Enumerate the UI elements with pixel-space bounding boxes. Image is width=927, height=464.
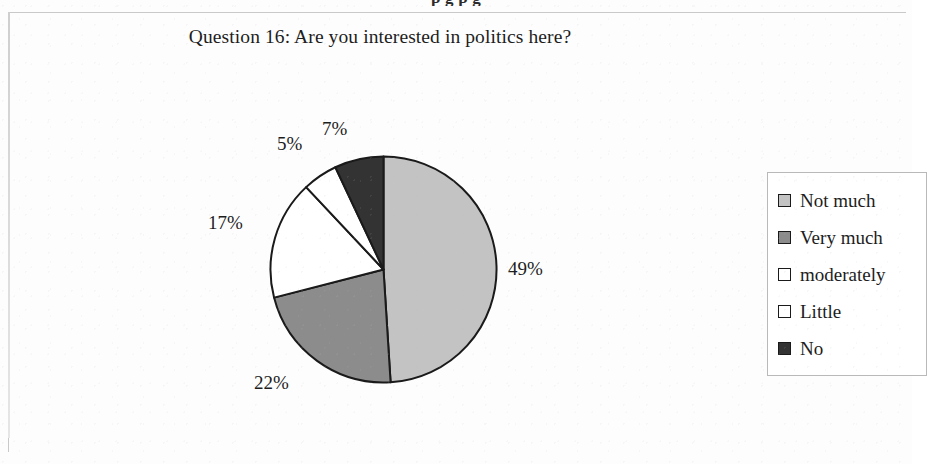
chart-title: Question 16: Are you interested in polit… <box>0 26 760 48</box>
legend-swatch-icon-moderately <box>778 268 791 281</box>
legend-swatch-icon-little <box>778 305 791 318</box>
legend-item-not-much: Not much <box>778 182 926 219</box>
legend-item-very-much: Very much <box>778 219 926 256</box>
legend-swatch-icon-not-much <box>778 194 791 207</box>
legend-swatch-icon-very-much <box>778 231 791 244</box>
pie-slice <box>384 156 497 382</box>
pie-chart <box>269 155 498 384</box>
slice-label-little: 5% <box>277 133 302 155</box>
chart-frame-left-edge <box>8 12 10 438</box>
legend-swatch-icon-no <box>778 342 791 355</box>
legend-label-little: Little <box>800 302 841 321</box>
legend-label-no: No <box>800 339 823 358</box>
legend-label-very-much: Very much <box>800 228 883 247</box>
legend-label-not-much: Not much <box>800 191 875 210</box>
slice-label-not-much: 49% <box>508 258 543 280</box>
chart-legend: Not much Very much moderately Little No <box>767 172 927 376</box>
legend-item-little: Little <box>778 293 926 330</box>
legend-item-no: No <box>778 330 926 367</box>
legend-item-moderately: moderately <box>778 256 926 293</box>
pie-chart-svg <box>269 155 498 384</box>
pie-slices <box>271 156 497 382</box>
legend-label-moderately: moderately <box>800 265 885 284</box>
slice-label-no: 7% <box>322 118 347 140</box>
page-bleed-text: p g p g <box>0 0 912 6</box>
slice-label-moderately: 17% <box>208 212 243 234</box>
slice-label-very-much: 22% <box>254 372 289 394</box>
